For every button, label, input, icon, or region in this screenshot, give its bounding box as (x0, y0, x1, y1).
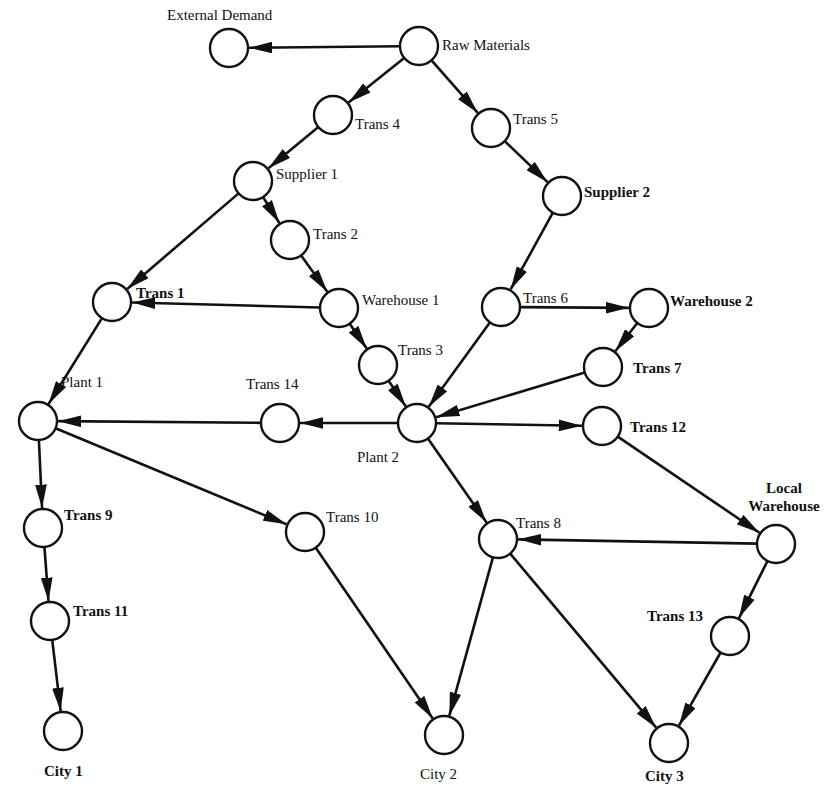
edges-layer (39, 46, 768, 727)
edge-trans13-to-city3 (679, 653, 721, 726)
node-trans7 (584, 348, 622, 386)
node-warehouse1 (320, 289, 358, 327)
label-trans9: Trans 9 (64, 507, 112, 524)
edge-trans8-to-city2 (449, 557, 493, 715)
edge-warehouse1-to-trans3 (350, 324, 367, 349)
label-trans10: Trans 10 (326, 509, 378, 526)
edge-trans6-to-plant2 (429, 322, 490, 406)
edge-trans8-to-city3 (510, 554, 656, 728)
edge-supplier1-to-trans2 (263, 197, 279, 223)
label-trans13: Trans 13 (647, 608, 703, 625)
edge-trans1-to-plant1 (49, 318, 102, 404)
node-raw_materials (400, 27, 438, 65)
edge-plant2-to-trans12 (436, 423, 582, 425)
node-local_warehouse (757, 525, 795, 563)
node-city2 (425, 716, 463, 754)
edge-plant1-to-trans9 (39, 440, 42, 508)
node-trans3 (359, 346, 397, 384)
node-trans11 (31, 602, 69, 640)
node-city1 (44, 712, 82, 750)
label-local-warehouse-line2: Warehouse (748, 498, 819, 515)
node-trans8 (479, 520, 517, 558)
label-trans3: Trans 3 (398, 342, 443, 359)
node-plant1 (19, 402, 57, 440)
edge-plant2-to-trans8 (428, 439, 487, 523)
label-trans2: Trans 2 (313, 226, 358, 243)
node-trans12 (583, 407, 621, 445)
label-external-demand: External Demand (167, 7, 272, 24)
edge-local_warehouse-to-trans13 (739, 561, 768, 618)
edge-raw_materials-to-trans4 (349, 58, 405, 103)
label-local-warehouse-line1: Local (766, 480, 802, 497)
edge-trans10-to-city2 (316, 548, 433, 719)
label-city2: City 2 (420, 766, 457, 783)
edge-trans7-to-plant2 (436, 372, 585, 417)
label-supplier1: Supplier 1 (276, 166, 338, 183)
edge-trans6-to-warehouse2 (520, 307, 629, 308)
edge-raw_materials-to-trans5 (432, 60, 478, 113)
node-city3 (650, 724, 688, 762)
node-trans1 (93, 283, 131, 321)
node-trans5 (472, 109, 510, 147)
node-supplier1 (234, 162, 272, 200)
label-trans7: Trans 7 (633, 360, 681, 377)
edge-trans5-to-supplier2 (505, 141, 548, 182)
label-trans11: Trans 11 (73, 603, 128, 620)
edge-trans2-to-warehouse1 (301, 255, 327, 291)
edge-trans12-to-local_warehouse (618, 437, 760, 533)
label-trans4: Trans 4 (355, 116, 400, 133)
label-city3: City 3 (645, 768, 684, 785)
supply-chain-diagram: External Demand Raw Materials Trans 4 Tr… (0, 0, 836, 803)
label-trans5: Trans 5 (513, 111, 558, 128)
edge-raw_materials-to-external_demand (249, 46, 400, 48)
label-raw-materials: Raw Materials (442, 37, 530, 54)
edge-supplier2-to-trans6 (511, 213, 553, 290)
nodes-layer (19, 27, 795, 762)
edge-trans11-to-city1 (52, 640, 60, 711)
label-plant2: Plant 2 (357, 449, 399, 466)
label-warehouse2: Warehouse 2 (670, 293, 753, 310)
edge-trans4-to-supplier1 (268, 127, 318, 168)
node-trans2 (271, 221, 309, 259)
label-plant1: Plant 1 (61, 374, 103, 391)
edge-trans14-to-plant1 (58, 421, 261, 423)
node-trans10 (286, 513, 324, 551)
label-trans14: Trans 14 (246, 376, 298, 393)
label-trans6: Trans 6 (523, 290, 568, 307)
node-warehouse2 (630, 289, 668, 327)
node-trans6 (482, 288, 520, 326)
node-external_demand (210, 29, 248, 67)
node-trans9 (24, 509, 62, 547)
label-trans8: Trans 8 (516, 515, 561, 532)
label-trans12: Trans 12 (630, 419, 686, 436)
edge-warehouse2-to-trans7 (615, 323, 637, 351)
network-graph (0, 0, 836, 803)
label-warehouse1: Warehouse 1 (362, 292, 440, 309)
edge-local_warehouse-to-trans8 (518, 539, 757, 543)
label-trans1: Trans 1 (136, 285, 184, 302)
label-city1: City 1 (44, 763, 83, 780)
edge-warehouse1-to-trans1 (132, 303, 320, 308)
label-supplier2: Supplier 2 (584, 184, 650, 201)
edge-supplier1-to-trans1 (127, 193, 238, 289)
node-trans14 (261, 404, 299, 442)
edge-trans9-to-trans11 (44, 547, 48, 601)
edge-trans3-to-plant2 (389, 381, 406, 407)
node-trans13 (711, 617, 749, 655)
node-supplier2 (543, 177, 581, 215)
node-trans4 (314, 96, 352, 134)
node-plant2 (398, 404, 436, 442)
